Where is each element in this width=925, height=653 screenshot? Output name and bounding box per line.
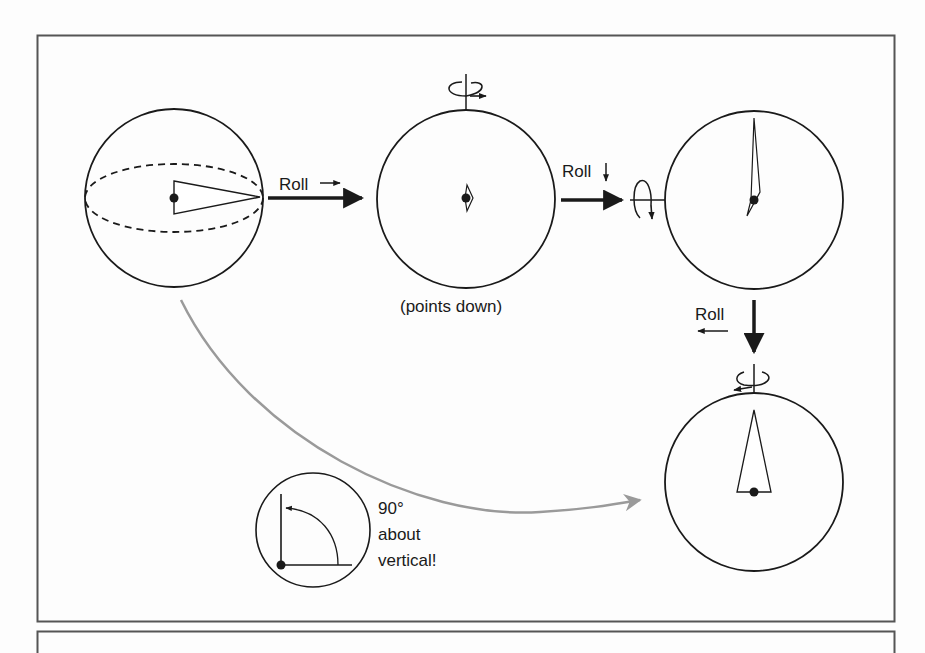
sphere-4 <box>665 364 843 571</box>
pointer-triangle <box>174 181 260 214</box>
next-panel-frame <box>38 632 895 653</box>
pointer-up-wide <box>737 410 771 492</box>
figure-frame <box>38 36 895 622</box>
net-effect-note: 90° about vertical! <box>378 496 437 574</box>
pivot-dot <box>277 561 286 570</box>
spin-indicator-vertical <box>734 364 769 393</box>
sphere-1 <box>85 109 263 287</box>
spin-indicator-horizontal <box>630 181 665 219</box>
pivot-dot <box>750 488 759 497</box>
note-vertical: vertical! <box>378 548 437 574</box>
sphere-2 <box>377 74 555 288</box>
pivot-dot <box>750 196 759 205</box>
roll-label-3: Roll <box>695 306 724 323</box>
spin-indicator-vertical <box>449 74 486 110</box>
roll-label-1: Roll <box>279 176 308 193</box>
pivot-dot <box>170 194 179 203</box>
note-about: about <box>378 522 437 548</box>
note-angle: 90° <box>378 496 437 522</box>
pivot-dot <box>462 194 471 203</box>
rotation-inset <box>256 473 370 587</box>
net-rotation-arrow <box>181 300 640 513</box>
diagram-canvas: Roll Roll Roll (points down) 90° about v… <box>0 0 925 653</box>
points-down-caption: (points down) <box>400 298 502 315</box>
roll-label-2: Roll <box>562 163 591 180</box>
sphere-3 <box>630 111 843 289</box>
diagram-svg <box>0 0 925 653</box>
